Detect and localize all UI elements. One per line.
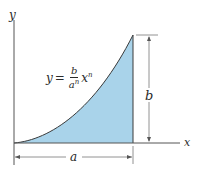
b-arrow-bottom — [147, 137, 151, 142]
y-axis-label: y — [9, 9, 16, 21]
denominator-exponent: n — [75, 78, 80, 86]
b-dimension-label: b — [145, 89, 153, 102]
fraction-numerator: b — [70, 66, 78, 78]
variable-exponent: n — [88, 71, 93, 79]
curve-equation: y = b an xn — [46, 66, 93, 90]
b-arrow-top — [147, 36, 151, 41]
fraction-denominator: an — [69, 78, 79, 90]
diagram-canvas — [0, 0, 199, 176]
x-axis-label: x — [184, 137, 190, 148]
equation-lhs: y — [46, 71, 53, 85]
a-arrow-left — [15, 155, 20, 159]
diagram: y x b a y = b an xn — [0, 0, 199, 176]
equation-fraction: b an — [69, 66, 79, 90]
equation-equals: = — [55, 71, 65, 85]
equation-variable: xn — [81, 71, 92, 85]
a-arrow-right — [127, 155, 132, 159]
a-dimension-label: a — [70, 151, 77, 163]
